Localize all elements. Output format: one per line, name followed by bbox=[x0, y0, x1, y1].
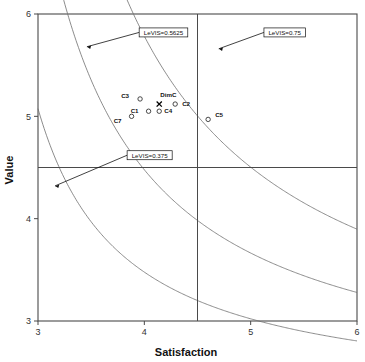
data-point: C1 bbox=[131, 107, 151, 114]
point-label: C1 bbox=[131, 107, 139, 114]
data-point: C3 bbox=[121, 92, 142, 101]
y-tick-label: 4 bbox=[26, 214, 31, 224]
data-point: C7 bbox=[114, 114, 134, 124]
point-marker-icon bbox=[129, 114, 133, 118]
point-marker-icon bbox=[138, 97, 142, 101]
x-tick-label: 4 bbox=[142, 327, 147, 337]
annotation-leader-line bbox=[55, 155, 127, 186]
iso-curve bbox=[58, 0, 357, 292]
data-points-layer: C3DimCC2C1C4C7C5 bbox=[114, 91, 224, 124]
point-marker-icon bbox=[173, 102, 177, 106]
data-point: DimC bbox=[157, 91, 177, 107]
chart-canvas: C3DimCC2C1C4C7C5 34563456 LeVIS=0.375LeV… bbox=[0, 0, 365, 362]
data-point: C4 bbox=[157, 107, 173, 114]
x-axis-title: Satisfaction bbox=[155, 346, 218, 358]
curve-annotation: LeVIS=0.375 bbox=[55, 151, 172, 188]
point-label: C2 bbox=[182, 100, 190, 107]
y-axis-title: Value bbox=[3, 156, 15, 185]
point-label: C3 bbox=[121, 92, 129, 99]
annotation-leader-line bbox=[87, 32, 139, 46]
point-label: C7 bbox=[114, 117, 122, 124]
scatter-chart: C3DimCC2C1C4C7C5 34563456 LeVIS=0.375LeV… bbox=[0, 0, 365, 362]
annotation-label: LeVIS=0.5625 bbox=[144, 29, 184, 36]
annotation-leader-line bbox=[219, 32, 264, 48]
x-tick-label: 3 bbox=[35, 327, 40, 337]
data-point: C5 bbox=[206, 111, 224, 121]
point-marker-icon bbox=[206, 117, 210, 121]
y-tick-label: 3 bbox=[26, 316, 31, 326]
curve-annotation: LeVIS=0.75 bbox=[219, 28, 306, 51]
x-tick-label: 6 bbox=[354, 327, 359, 337]
point-label: DimC bbox=[160, 91, 177, 98]
point-marker-icon bbox=[157, 109, 161, 113]
x-tick-label: 5 bbox=[248, 327, 253, 337]
point-marker-icon bbox=[146, 109, 150, 113]
data-point: C2 bbox=[173, 100, 191, 107]
annotation-label: LeVIS=0.75 bbox=[268, 29, 301, 36]
annotations-layer: LeVIS=0.375LeVIS=0.5625LeVIS=0.75 bbox=[55, 28, 305, 188]
y-tick-label: 6 bbox=[26, 9, 31, 19]
reference-lines-layer bbox=[38, 14, 357, 321]
y-tick-label: 5 bbox=[26, 112, 31, 122]
axis-ticks-layer: 34563456 bbox=[26, 9, 360, 337]
curve-annotation: LeVIS=0.5625 bbox=[87, 28, 188, 49]
point-label: C5 bbox=[215, 111, 223, 118]
annotation-label: LeVIS=0.375 bbox=[132, 152, 169, 159]
point-label: C4 bbox=[164, 107, 172, 114]
